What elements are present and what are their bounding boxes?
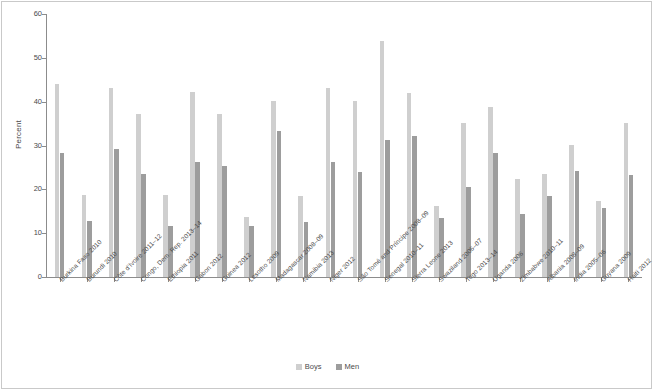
x-axis-tick-labels: Burkina Faso 2010Burundi 2010Côte d'Ivoi… bbox=[46, 278, 642, 352]
bar-men bbox=[575, 171, 580, 277]
bar-boys bbox=[82, 195, 87, 277]
bar-boys bbox=[353, 101, 358, 277]
bar-boys bbox=[380, 41, 385, 277]
bar-men bbox=[547, 196, 552, 277]
chart-legend: BoysMen bbox=[0, 362, 655, 371]
legend-item-men[interactable]: Men bbox=[336, 362, 360, 371]
bar-men bbox=[358, 172, 363, 277]
y-axis-line bbox=[46, 14, 47, 278]
bar-men bbox=[249, 226, 254, 277]
chart-figure: Percent 0102030405060 Burkina Faso 2010B… bbox=[0, 0, 655, 392]
bar-boys bbox=[163, 195, 168, 277]
bar-men bbox=[466, 187, 471, 277]
bar-men bbox=[331, 162, 336, 277]
y-tick-mark bbox=[42, 233, 46, 234]
y-tick-mark bbox=[42, 189, 46, 190]
legend-label: Boys bbox=[305, 362, 322, 371]
legend-swatch-icon bbox=[296, 364, 302, 370]
bar-boys bbox=[244, 217, 249, 277]
bar-men bbox=[602, 208, 607, 277]
y-tick-label: 40 bbox=[34, 97, 42, 106]
y-tick-label: 60 bbox=[34, 9, 42, 18]
y-tick-label: 10 bbox=[34, 228, 42, 237]
y-tick-label: 20 bbox=[34, 184, 42, 193]
bar-men bbox=[60, 153, 65, 277]
bar-men bbox=[222, 166, 227, 277]
y-tick-mark bbox=[42, 146, 46, 147]
y-tick-label: 30 bbox=[34, 141, 42, 150]
y-tick-label: 50 bbox=[34, 53, 42, 62]
plot-area: 0102030405060 bbox=[46, 14, 642, 278]
legend-label: Men bbox=[345, 362, 360, 371]
y-tick-mark bbox=[42, 102, 46, 103]
bar-men bbox=[493, 153, 498, 277]
y-axis-label: Percent bbox=[14, 95, 23, 175]
y-tick-mark bbox=[42, 58, 46, 59]
bar-boys bbox=[434, 206, 439, 277]
y-tick-label: 0 bbox=[38, 272, 42, 281]
bar-boys bbox=[298, 196, 303, 277]
bar-men bbox=[141, 174, 146, 277]
bar-boys bbox=[55, 84, 60, 277]
legend-swatch-icon bbox=[336, 364, 342, 370]
legend-item-boys[interactable]: Boys bbox=[296, 362, 322, 371]
bar-men bbox=[520, 214, 525, 277]
bar-men bbox=[629, 175, 634, 277]
y-tick-mark bbox=[42, 14, 46, 15]
bar-boys bbox=[596, 201, 601, 277]
